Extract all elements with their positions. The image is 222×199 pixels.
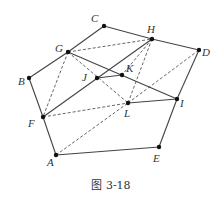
geometry-figure: ABCDEFGHIJKL <box>0 0 222 199</box>
segment-FL <box>43 103 128 117</box>
label-J: J <box>82 71 88 83</box>
segment-GH <box>68 39 152 52</box>
segment-GB <box>29 52 68 78</box>
segment-CG <box>68 26 104 52</box>
point-K <box>120 73 124 77</box>
point-F <box>41 115 45 119</box>
label-K: K <box>125 62 134 74</box>
point-H <box>150 37 154 41</box>
label-A: A <box>46 156 54 168</box>
point-B <box>27 76 31 80</box>
segment-LD <box>128 50 199 103</box>
point-C <box>102 24 106 28</box>
point-J <box>95 76 99 80</box>
point-I <box>175 97 179 101</box>
point-E <box>157 145 161 149</box>
label-D: D <box>201 46 210 58</box>
label-B: B <box>18 75 25 87</box>
label-G: G <box>55 42 63 54</box>
point-L <box>126 101 130 105</box>
segment-LI <box>128 99 177 103</box>
label-I: I <box>179 97 185 109</box>
figure-caption: 图 3-18 <box>0 176 222 192</box>
segment-AL <box>56 103 128 155</box>
segment-ID <box>177 50 199 99</box>
dashed-edges <box>43 39 199 155</box>
segment-AE <box>56 147 159 155</box>
label-E: E <box>152 152 160 164</box>
segment-EI <box>159 99 177 147</box>
point-D <box>197 48 201 52</box>
segment-GF <box>43 52 68 117</box>
point-G <box>66 50 70 54</box>
segment-FA <box>43 117 56 155</box>
segment-BF <box>29 78 43 117</box>
point-A <box>54 153 58 157</box>
label-L: L <box>123 107 130 119</box>
segment-DH <box>152 39 199 50</box>
segment-HC <box>104 26 152 39</box>
label-F: F <box>27 117 35 129</box>
label-C: C <box>91 12 99 24</box>
label-H: H <box>146 23 156 35</box>
